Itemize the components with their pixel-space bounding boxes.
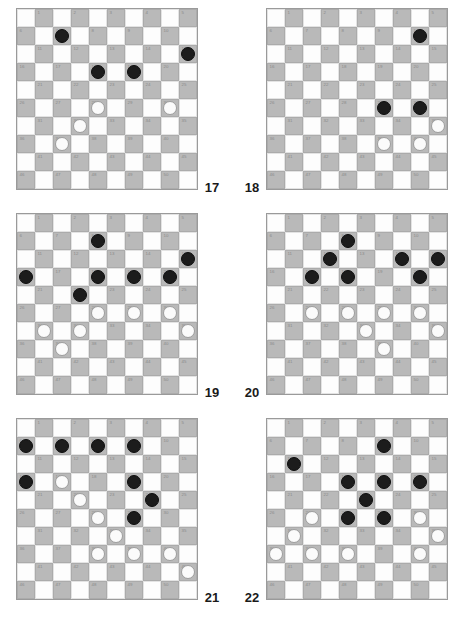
white-piece[interactable]	[413, 511, 427, 525]
board-square-7[interactable]: 7	[53, 232, 71, 250]
board-square-23[interactable]: 23	[107, 81, 125, 99]
board-square-27[interactable]: 27	[303, 304, 321, 322]
board-square-28[interactable]: 28	[89, 99, 107, 117]
board-square-16[interactable]: 16	[267, 268, 285, 286]
board-square-15[interactable]: 15	[179, 45, 197, 63]
board-square-44[interactable]: 44	[143, 563, 161, 581]
board-square-43[interactable]: 43	[107, 358, 125, 376]
board-square-26[interactable]: 26	[17, 509, 35, 527]
board-square-25[interactable]: 25	[429, 81, 447, 99]
board-square-47[interactable]: 47	[303, 376, 321, 394]
board-square-45[interactable]: 45	[179, 563, 197, 581]
board-square-9[interactable]: 9	[125, 437, 143, 455]
board-square-44[interactable]: 44	[143, 153, 161, 171]
board-square-42[interactable]: 42	[321, 153, 339, 171]
board-square-42[interactable]: 42	[71, 153, 89, 171]
board-square-46[interactable]: 46	[17, 376, 35, 394]
board-square-36[interactable]: 36	[17, 545, 35, 563]
board-square-13[interactable]: 13	[107, 45, 125, 63]
board-square-37[interactable]: 37	[53, 545, 71, 563]
board-square-47[interactable]: 47	[53, 171, 71, 189]
board-square-6[interactable]: 6	[17, 27, 35, 45]
board-square-29[interactable]: 29	[375, 99, 393, 117]
board-square-8[interactable]: 8	[339, 437, 357, 455]
board-square-41[interactable]: 41	[285, 358, 303, 376]
black-piece[interactable]	[305, 270, 319, 284]
board-square-12[interactable]: 12	[71, 45, 89, 63]
white-piece[interactable]	[91, 547, 105, 561]
board-square-43[interactable]: 43	[107, 153, 125, 171]
board-square-17[interactable]: 17	[303, 473, 321, 491]
board-square-43[interactable]: 43	[357, 153, 375, 171]
board-square-21[interactable]: 21	[285, 81, 303, 99]
board-square-22[interactable]: 22	[71, 81, 89, 99]
black-piece[interactable]	[341, 475, 355, 489]
board-square-24[interactable]: 24	[393, 286, 411, 304]
board-square-19[interactable]: 19	[125, 268, 143, 286]
board-square-9[interactable]: 9	[375, 232, 393, 250]
board-square-46[interactable]: 46	[267, 581, 285, 599]
board-square-38[interactable]: 38	[89, 340, 107, 358]
board-square-18[interactable]: 18	[339, 473, 357, 491]
white-piece[interactable]	[55, 475, 69, 489]
board-square-19[interactable]: 19	[375, 473, 393, 491]
board-square-15[interactable]: 15	[179, 250, 197, 268]
board-square-24[interactable]: 24	[393, 81, 411, 99]
board-square-34[interactable]: 34	[393, 322, 411, 340]
board-square-27[interactable]: 27	[53, 509, 71, 527]
board-square-28[interactable]: 28	[89, 304, 107, 322]
board-square-48[interactable]: 48	[339, 376, 357, 394]
board-square-43[interactable]: 43	[357, 563, 375, 581]
board-square-5[interactable]: 5	[429, 214, 447, 232]
board-square-5[interactable]: 5	[179, 9, 197, 27]
black-piece[interactable]	[359, 493, 373, 507]
board-square-40[interactable]: 40	[161, 135, 179, 153]
board-square-14[interactable]: 14	[143, 250, 161, 268]
board-square-3[interactable]: 3	[357, 419, 375, 437]
board-square-49[interactable]: 49	[375, 581, 393, 599]
black-piece[interactable]	[377, 439, 391, 453]
black-piece[interactable]	[341, 511, 355, 525]
black-piece[interactable]	[377, 101, 391, 115]
black-piece[interactable]	[91, 234, 105, 248]
white-piece[interactable]	[127, 547, 141, 561]
black-piece[interactable]	[341, 234, 355, 248]
black-piece[interactable]	[413, 29, 427, 43]
draughts-board-19[interactable]: 1234567891011121314151617181920212223242…	[16, 213, 198, 395]
black-piece[interactable]	[395, 252, 409, 266]
board-square-22[interactable]: 22	[321, 491, 339, 509]
board-square-27[interactable]: 27	[53, 99, 71, 117]
board-square-40[interactable]: 40	[161, 340, 179, 358]
black-piece[interactable]	[181, 252, 195, 266]
board-square-8[interactable]: 8	[339, 27, 357, 45]
board-square-7[interactable]: 7	[53, 437, 71, 455]
board-square-16[interactable]: 16	[17, 473, 35, 491]
board-square-9[interactable]: 9	[125, 27, 143, 45]
board-square-29[interactable]: 29	[125, 99, 143, 117]
board-square-17[interactable]: 17	[53, 63, 71, 81]
black-piece[interactable]	[413, 475, 427, 489]
board-square-2[interactable]: 2	[321, 214, 339, 232]
board-square-25[interactable]: 25	[179, 81, 197, 99]
board-square-30[interactable]: 30	[161, 304, 179, 322]
board-square-45[interactable]: 45	[429, 563, 447, 581]
board-square-36[interactable]: 36	[267, 340, 285, 358]
board-square-19[interactable]: 19	[125, 63, 143, 81]
white-piece[interactable]	[305, 511, 319, 525]
board-square-50[interactable]: 50	[161, 171, 179, 189]
black-piece[interactable]	[377, 511, 391, 525]
board-square-25[interactable]: 25	[179, 491, 197, 509]
draughts-board-17[interactable]: 1234567891011121314151617181920212223242…	[16, 8, 198, 190]
board-square-31[interactable]: 31	[285, 322, 303, 340]
board-square-31[interactable]: 31	[35, 117, 53, 135]
board-square-4[interactable]: 4	[143, 9, 161, 27]
board-square-32[interactable]: 32	[321, 527, 339, 545]
board-square-17[interactable]: 17	[53, 473, 71, 491]
board-square-33[interactable]: 33	[107, 527, 125, 545]
board-square-22[interactable]: 22	[321, 286, 339, 304]
white-piece[interactable]	[37, 324, 51, 338]
board-square-18[interactable]: 18	[89, 473, 107, 491]
board-square-33[interactable]: 33	[357, 322, 375, 340]
board-square-3[interactable]: 3	[357, 9, 375, 27]
white-piece[interactable]	[91, 101, 105, 115]
